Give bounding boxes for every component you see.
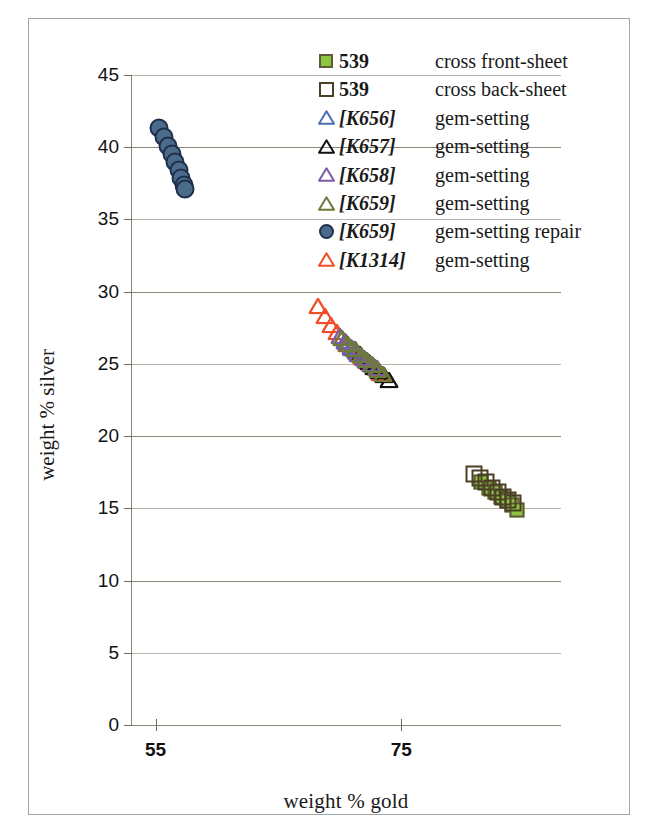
legend-item-label: gem-setting bbox=[435, 246, 529, 274]
triangle-open-blue-icon bbox=[313, 110, 339, 125]
data-point bbox=[465, 465, 482, 482]
legend-item: [K658]gem-setting bbox=[313, 161, 633, 189]
legend-item-key: [K656] bbox=[339, 104, 435, 132]
data-point bbox=[345, 341, 364, 358]
data-point bbox=[499, 494, 514, 509]
data-point bbox=[360, 354, 379, 371]
data-point bbox=[333, 329, 352, 346]
y-tick bbox=[124, 653, 132, 654]
y-tick bbox=[124, 219, 132, 220]
data-point bbox=[370, 363, 389, 380]
data-point bbox=[357, 351, 376, 368]
data-point bbox=[484, 480, 501, 497]
legend-item: [K659]gem-setting repair bbox=[313, 217, 633, 245]
data-point bbox=[375, 367, 394, 384]
data-point bbox=[509, 502, 524, 517]
triangle-open-red-icon bbox=[313, 252, 339, 267]
circle-filled-blue-icon bbox=[313, 224, 339, 239]
data-point bbox=[349, 345, 368, 362]
y-tick bbox=[124, 725, 132, 726]
x-tick bbox=[156, 719, 157, 731]
y-tick bbox=[124, 581, 132, 582]
gridline bbox=[131, 725, 561, 726]
y-tick-label: 20 bbox=[98, 425, 119, 447]
triangle-open-black-icon bbox=[313, 139, 339, 154]
data-point bbox=[500, 491, 517, 508]
legend-item-key: [K659] bbox=[339, 189, 435, 217]
data-point bbox=[478, 474, 495, 491]
data-point bbox=[471, 470, 488, 487]
legend-item-key: [K659] bbox=[339, 217, 435, 245]
data-point bbox=[343, 340, 362, 357]
legend-item-key: 539 bbox=[339, 75, 435, 103]
data-point bbox=[348, 344, 367, 361]
y-axis-title: weight % silver bbox=[35, 349, 60, 481]
data-point bbox=[176, 180, 195, 199]
y-tick-label: 0 bbox=[108, 714, 119, 736]
data-point bbox=[166, 152, 185, 171]
legend-item: [K656]gem-setting bbox=[313, 104, 633, 132]
gridline bbox=[131, 653, 561, 654]
gridline bbox=[131, 508, 561, 509]
data-point bbox=[481, 481, 496, 496]
data-point bbox=[328, 324, 347, 341]
y-axis-line bbox=[131, 75, 132, 725]
gridline bbox=[131, 581, 561, 582]
y-tick bbox=[124, 75, 132, 76]
legend-item-label: gem-setting bbox=[435, 189, 529, 217]
data-point bbox=[341, 338, 360, 355]
data-point bbox=[169, 161, 188, 180]
y-tick-label: 40 bbox=[98, 136, 119, 158]
data-point bbox=[487, 485, 502, 500]
data-point bbox=[350, 345, 369, 362]
legend-item: 539cross back-sheet bbox=[313, 75, 633, 103]
data-point bbox=[155, 128, 174, 147]
figure-frame: 051015202530354045 5575 weight % silver … bbox=[28, 18, 630, 815]
data-point bbox=[356, 351, 375, 368]
data-point bbox=[493, 489, 508, 504]
data-point bbox=[364, 357, 383, 374]
data-point bbox=[172, 168, 191, 187]
legend-item-label: gem-setting bbox=[435, 161, 529, 189]
x-axis-title: weight % gold bbox=[131, 789, 561, 814]
data-point bbox=[343, 340, 362, 357]
data-point bbox=[338, 335, 357, 352]
square-filled-green-icon bbox=[313, 54, 339, 68]
legend-item: [K657]gem-setting bbox=[313, 132, 633, 160]
data-point bbox=[357, 353, 376, 370]
y-tick-label: 35 bbox=[98, 208, 119, 230]
y-tick bbox=[124, 436, 132, 437]
gridline bbox=[131, 436, 561, 437]
y-tick-label: 30 bbox=[98, 281, 119, 303]
data-point bbox=[316, 308, 335, 325]
data-point bbox=[346, 342, 365, 359]
legend-item-label: gem-setting bbox=[435, 104, 529, 132]
x-tick-label: 55 bbox=[145, 739, 166, 761]
x-tick-label: 75 bbox=[391, 739, 412, 761]
legend-item-label: cross front-sheet bbox=[435, 47, 568, 75]
x-tick bbox=[401, 719, 402, 731]
data-point bbox=[367, 360, 386, 377]
data-point bbox=[174, 175, 193, 194]
y-tick-label: 25 bbox=[98, 353, 119, 375]
gridline bbox=[131, 364, 561, 365]
data-point bbox=[371, 364, 390, 381]
data-point bbox=[339, 335, 358, 352]
square-open-dark-icon bbox=[313, 82, 339, 97]
data-point bbox=[366, 358, 385, 375]
legend-item: [K1314]gem-setting bbox=[313, 246, 633, 274]
data-point bbox=[367, 360, 386, 377]
y-tick-label: 10 bbox=[98, 570, 119, 592]
data-point bbox=[490, 484, 507, 501]
data-point bbox=[373, 366, 392, 383]
gridline bbox=[131, 292, 561, 293]
data-point bbox=[351, 347, 370, 364]
legend-item-label: gem-setting bbox=[435, 132, 529, 160]
legend-item-label: cross back-sheet bbox=[435, 75, 567, 103]
data-point bbox=[333, 329, 352, 346]
legend-item: 539cross front-sheet bbox=[313, 47, 633, 75]
data-point bbox=[335, 332, 354, 349]
y-tick bbox=[124, 292, 132, 293]
triangle-open-purple-icon bbox=[313, 167, 339, 182]
data-point bbox=[504, 498, 519, 513]
